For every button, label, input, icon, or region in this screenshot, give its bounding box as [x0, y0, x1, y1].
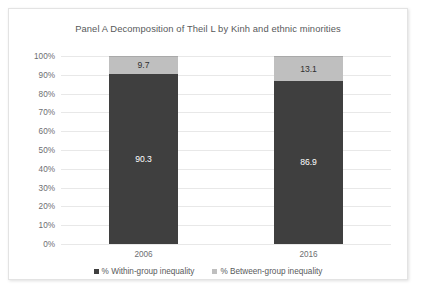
bar-segment-between-group[interactable]: 9.7	[109, 56, 178, 74]
y-axis-tick-label: 70%	[39, 108, 55, 117]
x-axis-tick-label: 2016	[274, 250, 343, 259]
x-axis-tick-label: 2006	[109, 250, 178, 259]
y-axis-tick-label: 100%	[34, 52, 55, 61]
bar-group[interactable]: 13.186.92016	[274, 56, 343, 244]
legend-item-within-group[interactable]: % Within-group inequality	[94, 267, 195, 276]
bar-value-label: 13.1	[300, 65, 317, 74]
bar-segment-between-group[interactable]: 13.1	[274, 56, 343, 81]
bar-group[interactable]: 9.790.32006	[109, 56, 178, 244]
legend-swatch-icon	[94, 269, 99, 274]
legend-label-within-group: % Within-group inequality	[102, 267, 195, 276]
y-axis-tick-label: 90%	[39, 70, 55, 79]
bar-value-label: 9.7	[138, 61, 150, 70]
bar-segment-within-group[interactable]: 90.3	[109, 74, 178, 244]
chart-title: Panel A Decomposition of Theil L by Kinh…	[9, 23, 407, 34]
bar-stack: 9.790.3	[109, 56, 178, 244]
y-axis-tick-label: 0%	[43, 240, 55, 249]
y-axis-tick-label: 60%	[39, 127, 55, 136]
chart-container: Panel A Decomposition of Theil L by Kinh…	[8, 8, 408, 280]
bar-value-label: 86.9	[300, 158, 317, 167]
bar-stack: 13.186.9	[274, 56, 343, 244]
y-axis-tick-label: 50%	[39, 146, 55, 155]
legend-item-between-group[interactable]: % Between-group inequality	[212, 267, 322, 276]
y-axis-tick-label: 40%	[39, 164, 55, 173]
y-axis-tick-label: 30%	[39, 183, 55, 192]
gridline	[61, 244, 391, 245]
chart-legend: % Within-group inequality % Between-grou…	[9, 267, 407, 276]
bar-value-label: 90.3	[135, 155, 152, 164]
y-axis-tick-label: 10%	[39, 221, 55, 230]
legend-swatch-icon	[212, 269, 217, 274]
legend-label-between-group: % Between-group inequality	[220, 267, 322, 276]
plot-area: 100%90%80%70%60%50%40%30%20%10%0%9.790.3…	[61, 56, 391, 244]
y-axis-tick-label: 20%	[39, 202, 55, 211]
y-axis-tick-label: 80%	[39, 89, 55, 98]
bar-segment-within-group[interactable]: 86.9	[274, 81, 343, 244]
